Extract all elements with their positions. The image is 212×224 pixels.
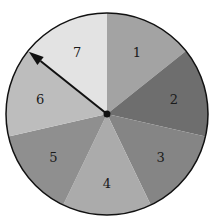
sector-label: 5 [49, 150, 57, 165]
sector-label: 6 [36, 92, 44, 107]
sector-label: 2 [170, 92, 178, 107]
sector-label: 7 [73, 45, 81, 60]
spinner-hub [104, 111, 111, 118]
sector-label: 3 [157, 150, 165, 165]
sector-label: 1 [133, 45, 141, 60]
sector-label: 4 [103, 176, 111, 191]
spinner-diagram: 1234567 [0, 0, 212, 224]
